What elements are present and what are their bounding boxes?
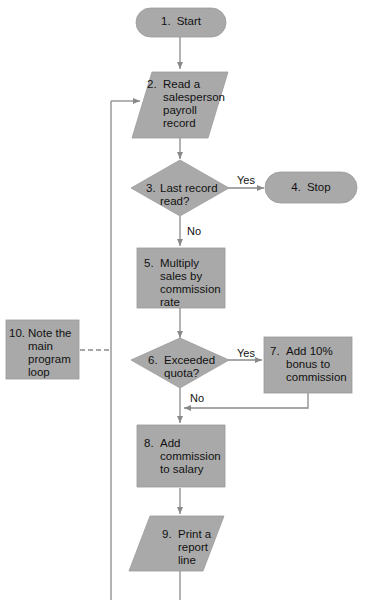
node-label: Multiply sales by commission rate <box>160 257 222 309</box>
node-label: Stop <box>307 181 331 194</box>
node-number: 5. <box>144 257 160 309</box>
node-label: Add commission to salary <box>160 437 224 476</box>
node-number: 7. <box>270 345 286 384</box>
node-number: 4. <box>291 181 301 194</box>
edge-label-no-last-record: No <box>187 225 201 237</box>
node-stop: 4. Stop <box>265 181 357 194</box>
node-label: Last record read? <box>160 182 222 208</box>
node-annotation-loop: 10. Note the main program loop <box>9 327 79 379</box>
node-label: Print a report line <box>178 528 218 567</box>
edge-label-no-quota: No <box>190 392 204 404</box>
node-number: 2. <box>147 78 163 130</box>
node-last-record-decision: 3. Last record read? <box>146 182 226 208</box>
node-start: 1. Start <box>136 15 226 28</box>
node-label: Add 10% bonus to commission <box>286 345 350 384</box>
edge-label-yes-quota: Yes <box>237 347 255 359</box>
node-label: Note the main program loop <box>28 327 76 379</box>
node-print-line: 9. Print a report line <box>162 528 222 567</box>
node-multiply: 5. Multiply sales by commission rate <box>144 257 224 309</box>
node-number: 9. <box>162 528 178 567</box>
node-add-commission: 8. Add commission to salary <box>144 437 224 476</box>
node-number: 6. <box>148 354 164 380</box>
node-read-record: 2. Read a salesperson payroll record <box>147 78 227 130</box>
node-add-bonus: 7. Add 10% bonus to commission <box>270 345 352 384</box>
node-label: Read a salesperson payroll record <box>163 78 223 130</box>
node-number: 10. <box>9 327 28 379</box>
node-number: 1. <box>161 15 171 28</box>
node-quota-decision: 6. Exceeded quota? <box>148 354 228 380</box>
node-label: Exceeded quota? <box>164 354 220 380</box>
node-label: Start <box>177 15 201 28</box>
edge-label-yes-last-record: Yes <box>237 174 255 186</box>
node-number: 8. <box>144 437 160 476</box>
